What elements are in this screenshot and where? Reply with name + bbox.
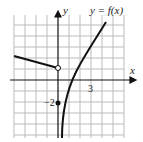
graph <box>0 0 143 142</box>
tick-neg2: −2 <box>44 97 55 108</box>
axes <box>10 11 136 138</box>
function-label: y = f(x) <box>90 4 123 16</box>
y-axis-label: y <box>63 4 68 16</box>
open-circle <box>56 66 61 71</box>
grid <box>14 15 124 138</box>
x-axis-label: x <box>130 64 135 76</box>
filled-dot <box>56 101 61 106</box>
tick-3: 3 <box>88 83 93 94</box>
